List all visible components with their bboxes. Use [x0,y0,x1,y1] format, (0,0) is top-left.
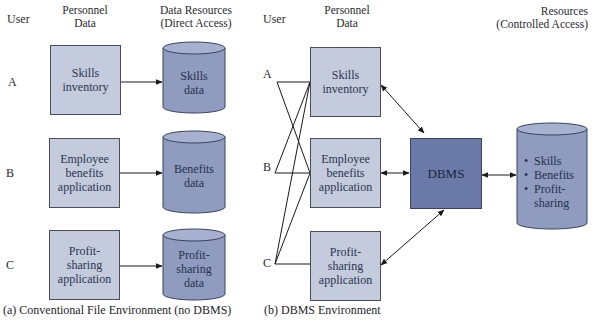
app-label: Profit-sharing application [316,245,376,287]
panel-a-user-a: A [8,75,17,90]
panel-b-skills-inventory-box: Skills inventory [310,47,381,117]
skills-data-label: Skills data [163,58,225,108]
dbms-box: DBMS [410,138,482,209]
panel-a-user-b: B [6,166,14,181]
database-item-benefits: Benefits [524,168,588,182]
app-label: Employee benefits application [54,152,116,194]
panel-b-personnel-header: Personnel Data [312,4,382,30]
database-item-profit-sharing: Profit-sharing [524,182,578,210]
app-label: Employee benefits application [315,152,377,194]
panel-a-skills-inventory-box: Skills inventory [50,45,121,115]
app-label: Skills inventory [316,68,376,96]
panel-a-caption: (a) Conventional File Environment (no DB… [3,303,231,318]
personnel-line2: Data [55,17,115,30]
panel-a-resources-header: Data Resources (Direct Access) [150,4,242,30]
store-label: Skills data [174,69,214,97]
resources-line2: (Controlled Access) [470,18,588,31]
panel-b-user-b: B [263,160,271,175]
panel-b-profit-sharing-box: Profit-sharing application [310,231,381,301]
panel-b-resources-header: Resources (Controlled Access) [470,0,588,31]
app-label: Skills inventory [56,66,116,94]
app-label: Profit-sharing application [55,244,115,286]
panel-a-user-c: C [6,258,14,273]
dbms-label: DBMS [428,167,465,181]
panel-b-user-c: C [263,256,271,271]
panel-a-employee-benefits-box: Employee benefits application [49,138,120,208]
personnel-line1: Personnel [55,4,115,17]
resources-line1: Data Resources [150,4,242,17]
resources-line1: Resources [470,5,588,18]
panel-b-user-header: User [263,12,286,27]
benefits-data-label: Benefits data [163,148,225,203]
resources-line2: (Direct Access) [150,17,242,30]
store-label: Profit-sharing data [169,248,219,290]
panel-a-profit-sharing-box: Profit-sharing application [49,230,120,300]
panel-a-personnel-header: Personnel Data [55,4,115,30]
profit-sharing-data-label: Profit-sharing data [163,244,225,294]
panel-b-user-a: A [263,67,272,82]
store-label: Benefits data [169,162,219,190]
personnel-line2: Data [312,17,382,30]
personnel-line1: Personnel [312,4,382,17]
panel-a-user-header: User [7,12,30,27]
database-contents: Skills Benefits Profit-sharing [524,154,588,210]
user-access-lines [275,82,310,266]
database-item-skills: Skills [524,154,588,168]
panel-b-employee-benefits-box: Employee benefits application [310,138,381,208]
panel-b-caption: (b) DBMS Environment [264,303,381,318]
